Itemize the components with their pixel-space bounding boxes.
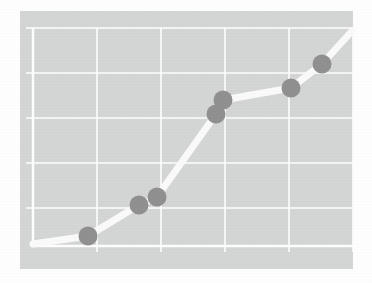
data-point-marker-1 <box>79 227 98 246</box>
data-point-marker-5 <box>214 91 233 110</box>
data-point-marker-2 <box>130 196 149 215</box>
line-chart-graphic <box>0 0 372 283</box>
chart-placeholder-image <box>0 0 372 283</box>
data-point-marker-7 <box>313 55 332 74</box>
plot-panel-background <box>20 11 353 269</box>
data-point-marker-6 <box>282 79 301 98</box>
data-point-marker-3 <box>148 188 167 207</box>
